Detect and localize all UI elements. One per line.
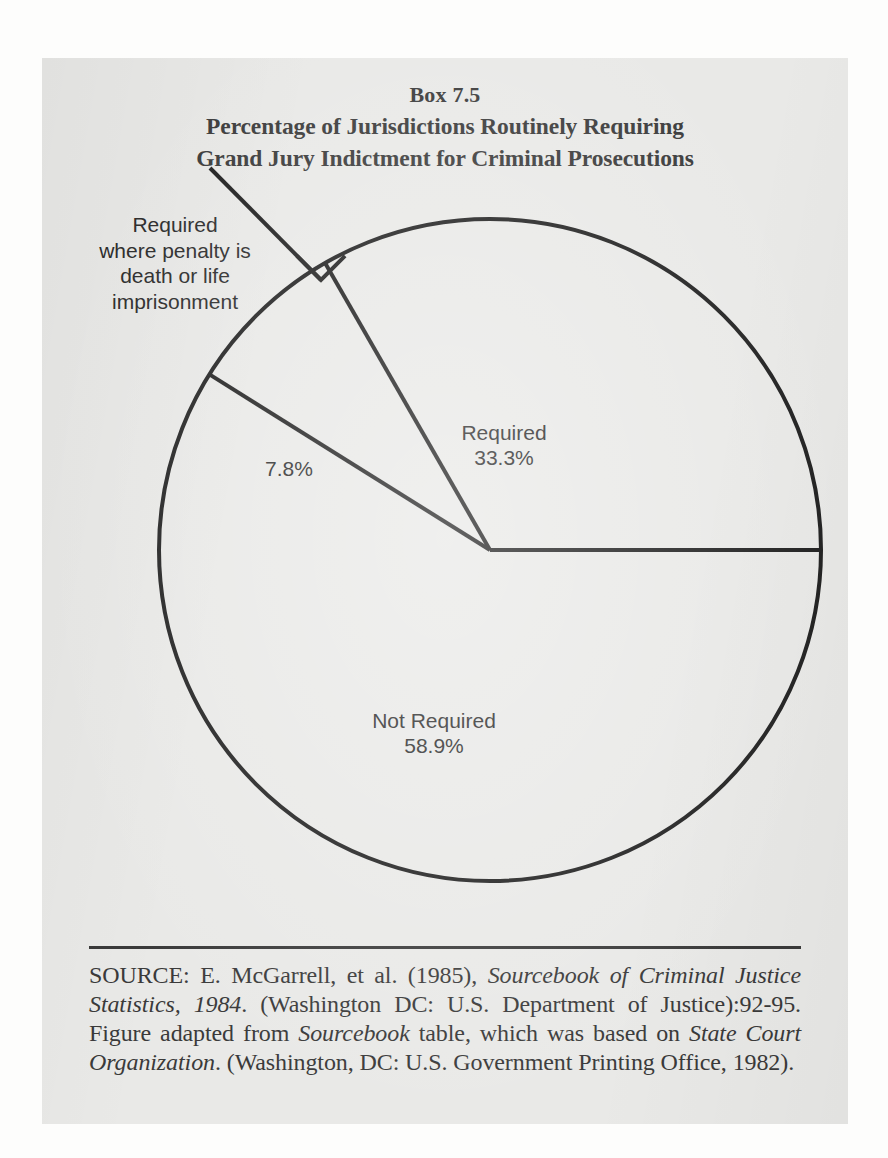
source-note: SOURCE: E. McGarrell, et al. (1985), Sou… bbox=[89, 946, 801, 1077]
slice-label-not-required-value: 58.9% bbox=[324, 733, 544, 758]
slice-label-conditional-value: 7.8% bbox=[234, 456, 344, 481]
source-italic-2: Sourcebook bbox=[298, 1020, 409, 1046]
source-divider-rule bbox=[89, 946, 801, 949]
callout-line-3: death or life bbox=[60, 263, 290, 289]
slice-label-not-required-name: Not Required bbox=[324, 708, 544, 733]
slice-label-conditional: 7.8% bbox=[234, 456, 344, 481]
slice-label-required-name: Required bbox=[424, 420, 584, 445]
callout-line-2: where penalty is bbox=[60, 238, 290, 264]
pie-chart-svg bbox=[42, 58, 848, 988]
source-part-4: . (Washington, DC: U.S. Government Print… bbox=[215, 1049, 794, 1075]
callout-annotation: Required where penalty is death or life … bbox=[60, 212, 290, 314]
source-part-3: table, which was based on bbox=[410, 1020, 689, 1046]
slice-label-not-required: Not Required 58.9% bbox=[324, 708, 544, 758]
pie-chart: Required where penalty is death or life … bbox=[42, 58, 848, 988]
source-part-1: E. McGarrell, et al. (1985), bbox=[190, 962, 488, 988]
source-text: SOURCE: E. McGarrell, et al. (1985), Sou… bbox=[89, 961, 801, 1077]
callout-line-4: imprisonment bbox=[60, 289, 290, 315]
callout-line-1: Required bbox=[60, 212, 290, 238]
slice-label-required-value: 33.3% bbox=[424, 445, 584, 470]
pie-divider-required-conditional bbox=[325, 263, 490, 550]
scanned-page: Box 7.5 Percentage of Jurisdictions Rout… bbox=[42, 58, 848, 1124]
slice-label-required: Required 33.3% bbox=[424, 420, 584, 470]
source-prefix: SOURCE: bbox=[89, 962, 190, 988]
